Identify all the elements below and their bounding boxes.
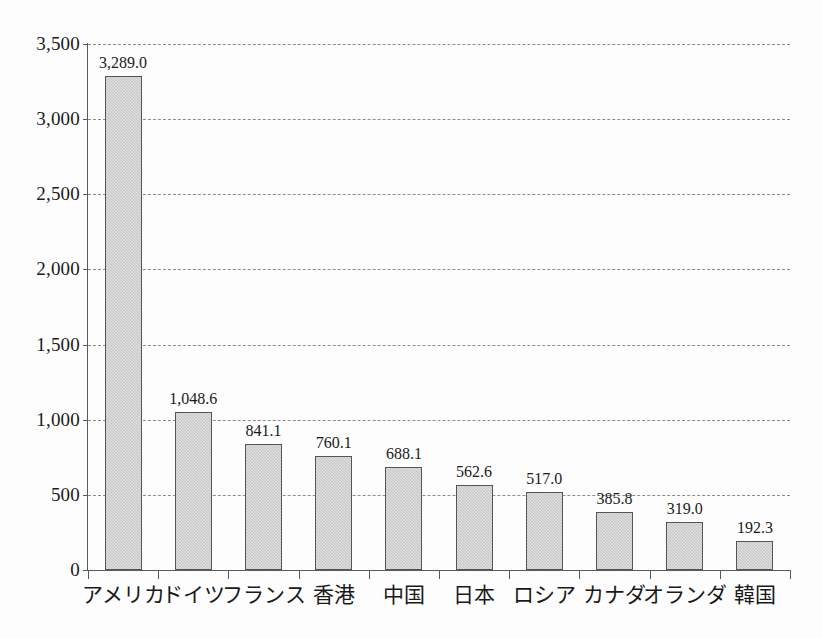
x-axis-tick: [369, 570, 370, 579]
y-axis-tick: [83, 269, 88, 270]
x-axis-tick: [650, 570, 651, 579]
bar-中国[interactable]: [385, 467, 422, 570]
x-axis-tick: [720, 570, 721, 579]
y-axis-tick: [83, 119, 88, 120]
x-axis-tick: [509, 570, 510, 579]
gridline-3000: [88, 119, 790, 120]
x-axis-tick: [228, 570, 229, 579]
bar-カナダ[interactable]: [596, 512, 633, 570]
y-axis-tick: [83, 495, 88, 496]
x-axis-tick: [299, 570, 300, 579]
bar-アメリカ[interactable]: [105, 76, 142, 570]
bar-value-label-オランダ: 319.0: [635, 501, 735, 517]
bar-value-label-ドイツ: 1,048.6: [143, 391, 243, 407]
x-axis-category-label-韓国: 韓国: [700, 583, 810, 607]
y-axis-tick: [83, 345, 88, 346]
y-axis-tick: [83, 44, 88, 45]
y-axis-tick-label: 2,000: [8, 259, 80, 278]
y-axis-tick-label: 1,000: [8, 410, 80, 429]
bar-value-label-中国: 688.1: [354, 446, 454, 462]
bar-value-label-アメリカ: 3,289.0: [73, 55, 173, 71]
y-axis-tick-label: 1,500: [8, 335, 80, 354]
x-axis-tick-end: [790, 570, 791, 579]
bar-ドイツ[interactable]: [175, 412, 212, 570]
bar-韓国[interactable]: [736, 541, 773, 570]
bar-ロシア[interactable]: [526, 492, 563, 570]
x-axis-tick: [158, 570, 159, 579]
bar-chart: 05001,0001,5002,0002,5003,0003,500 3,289…: [0, 0, 822, 638]
x-axis-tick: [88, 570, 89, 579]
y-axis-tick-label: 0: [8, 560, 80, 579]
y-axis-labels: 05001,0001,5002,0002,5003,0003,500: [0, 0, 80, 638]
gridline-1500: [88, 345, 790, 346]
gridline-3500: [88, 44, 790, 45]
y-axis-tick-label: 2,500: [8, 184, 80, 203]
bar-value-label-韓国: 192.3: [705, 520, 805, 536]
bar-日本[interactable]: [456, 485, 493, 570]
gridline-2000: [88, 269, 790, 270]
y-axis-tick: [83, 420, 88, 421]
bar-フランス[interactable]: [245, 444, 282, 570]
bar-オランダ[interactable]: [666, 522, 703, 570]
y-axis-tick-label: 500: [8, 485, 80, 504]
plot-area: 3,289.01,048.6841.1760.1688.1562.6517.03…: [88, 44, 790, 570]
y-axis-tick-label: 3,500: [8, 34, 80, 53]
y-axis-tick: [83, 194, 88, 195]
bar-value-label-ロシア: 517.0: [494, 471, 594, 487]
x-axis-tick: [579, 570, 580, 579]
gridline-2500: [88, 194, 790, 195]
x-axis-tick: [439, 570, 440, 579]
bar-香港[interactable]: [315, 456, 352, 570]
y-axis-tick-label: 3,000: [8, 109, 80, 128]
